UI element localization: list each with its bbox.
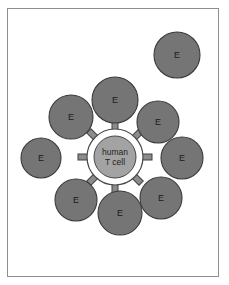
center-cell-body bbox=[94, 136, 136, 178]
e-cell bbox=[98, 191, 142, 235]
e-cell bbox=[49, 95, 93, 139]
e-cell bbox=[92, 77, 138, 123]
e-cell bbox=[21, 138, 61, 178]
diagram-canvas bbox=[0, 0, 229, 285]
e-cell bbox=[137, 101, 179, 143]
e-cell bbox=[55, 179, 97, 221]
center-cell-layer bbox=[87, 129, 143, 185]
e-cell bbox=[140, 177, 182, 219]
e-cell bbox=[154, 32, 200, 78]
figure-container: humanT cellEEEEEEEEE bbox=[0, 0, 229, 285]
e-cell bbox=[161, 137, 203, 179]
